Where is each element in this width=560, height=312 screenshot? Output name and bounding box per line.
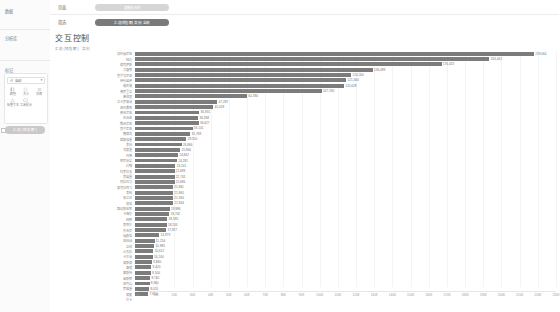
bar-mark[interactable] (135, 148, 180, 152)
bar-value-label: 23,241 (177, 164, 187, 168)
bar-mark[interactable] (135, 212, 169, 216)
bar-mark[interactable] (135, 196, 173, 200)
bar-mark[interactable] (135, 143, 182, 147)
bar-mark[interactable] (135, 164, 175, 168)
bar-mark[interactable] (135, 260, 152, 264)
bar-value-label: 8,740 (151, 276, 159, 280)
mark-type-dropdown[interactable]: 自动 ▾ (7, 77, 45, 84)
bar-row-label: 华盛顿 (50, 67, 135, 72)
bar-mark[interactable] (135, 100, 217, 104)
marks-label-button[interactable]: 标签文本 (7, 97, 19, 107)
x-axis-tick-label: 10K (153, 293, 159, 297)
marks-size-button[interactable]: 大小 (20, 86, 32, 96)
bar-mark[interactable] (135, 105, 213, 109)
bar-value-label: 21,944 (174, 201, 184, 205)
bar-mark[interactable] (135, 78, 346, 82)
bar-mark[interactable] (135, 121, 199, 125)
bar-value-label: 31,769 (192, 132, 202, 136)
pages-shelf-pill[interactable]: 度量值名称 (95, 4, 169, 11)
bar-mark[interactable] (135, 249, 153, 253)
bar-mark[interactable] (135, 57, 489, 61)
bar-mark[interactable] (135, 180, 175, 184)
bar-value-label: 17,927 (167, 228, 177, 232)
bar-row-label: 密歇根 (50, 94, 135, 99)
bar-value-label: 26,866 (183, 143, 193, 147)
bar-mark[interactable] (135, 153, 178, 157)
left-sidebar: 数据 分析库 标记 自动 ▾ 颜色 (0, 0, 51, 312)
x-axis-tick-label: 200K (498, 293, 505, 297)
bar-mark[interactable] (135, 201, 173, 205)
marks-tooltip-button[interactable]: 工具提示 (20, 97, 32, 107)
bar-mark[interactable] (135, 233, 159, 237)
bar-mark[interactable] (135, 271, 151, 275)
bar-chart-plot: 加利福尼亚229,064纽约203,461德克萨斯176,023华盛顿136,4… (50, 51, 559, 287)
marks-detail-button[interactable]: 详情 (33, 86, 45, 96)
bar-mark[interactable] (135, 116, 198, 120)
bar-value-label: 36,627 (200, 121, 210, 125)
sidebar-section-data: 数据 (5, 8, 13, 14)
bar-mark[interactable] (135, 68, 373, 72)
bar-value-label: 36,338 (199, 116, 209, 120)
bar-mark[interactable] (135, 94, 247, 98)
bar-row-label: 丹佛 (50, 153, 135, 158)
bar-mark[interactable] (135, 255, 153, 259)
bar-row-label: 俄亥俄 (50, 83, 135, 88)
bar-mark[interactable] (135, 132, 190, 136)
sidebar-divider-2 (0, 60, 50, 61)
bar-mark[interactable] (135, 223, 167, 227)
label-icon (7, 97, 19, 103)
filters-shelf-pill[interactable]: 汇总(销售额) 类别: 全部 (95, 19, 169, 26)
checkbox-icon[interactable] (1, 128, 6, 133)
bar-mark[interactable] (135, 52, 534, 56)
bar-mark[interactable] (135, 185, 173, 189)
bar-chart-icon (10, 78, 14, 82)
bar-row-label: 路易斯安那 (50, 206, 135, 211)
bar-row-label: 贝卡 (50, 297, 135, 302)
x-axis-tick-label: 20K (172, 293, 178, 297)
bar-mark[interactable] (135, 239, 155, 243)
marks-label-label: 标签文本 (7, 103, 19, 107)
filters-shelf-pill-label: 汇总(销售额) 类别: 全部 (114, 20, 149, 25)
bar-row-label: 宾夕法尼亚 (50, 73, 135, 78)
x-axis-tick-label: 60K (244, 293, 250, 297)
bar-value-label: 10,985 (155, 244, 165, 248)
bar-mark[interactable] (135, 175, 175, 179)
x-axis-tick-label: 40K (208, 293, 214, 297)
bar-mark[interactable] (135, 159, 177, 163)
bar-value-label: 19,702 (171, 212, 181, 216)
bar-mark[interactable] (135, 73, 351, 77)
bar-mark[interactable] (135, 265, 151, 269)
bar-row-label: 伊利诺伊 (50, 78, 135, 83)
bar-row-label: 亚利桑那 (50, 105, 135, 110)
bar-mark[interactable] (135, 282, 150, 286)
bar-row-label: 美国 (50, 142, 135, 147)
marks-color-label: 颜色 (7, 92, 19, 96)
marks-measure-pill[interactable]: 汇总(销售额) (5, 126, 45, 134)
bar-mark[interactable] (135, 127, 193, 131)
bar-mark[interactable] (135, 137, 186, 141)
bar-rows-container: 加利福尼亚229,064纽约203,461德克萨斯176,023华盛顿136,4… (50, 51, 559, 302)
bar-mark[interactable] (135, 244, 154, 248)
bar-mark[interactable] (135, 217, 167, 221)
bar-value-label: 45,029 (215, 105, 225, 109)
bar-mark[interactable] (135, 62, 442, 66)
bar-row-label: 威斯康星 (50, 137, 135, 142)
bar-row-label: 丽塔 (50, 201, 135, 206)
bar-row-label: 佐治亚 (50, 115, 135, 120)
bar-mark[interactable] (135, 111, 199, 115)
bar-value-label: 22,699 (176, 169, 186, 173)
bar-mark[interactable] (135, 207, 170, 211)
bar-mark[interactable] (135, 191, 173, 195)
marks-color-button[interactable]: 颜色 (7, 86, 19, 96)
bar-row-label: 姆顿 (50, 217, 135, 222)
x-axis-tick-label: 50K (226, 293, 232, 297)
bar-mark[interactable] (135, 89, 322, 93)
x-axis-tick-label: 130K (371, 293, 378, 297)
x-axis-tick-label: 220K (534, 293, 541, 297)
bar-mark[interactable] (135, 276, 150, 280)
bar-mark[interactable] (135, 84, 344, 88)
bar-mark[interactable] (135, 228, 166, 232)
bar-value-label: 19,986 (171, 207, 181, 211)
bar-value-label: 22,741 (176, 175, 186, 179)
bar-mark[interactable] (135, 169, 175, 173)
